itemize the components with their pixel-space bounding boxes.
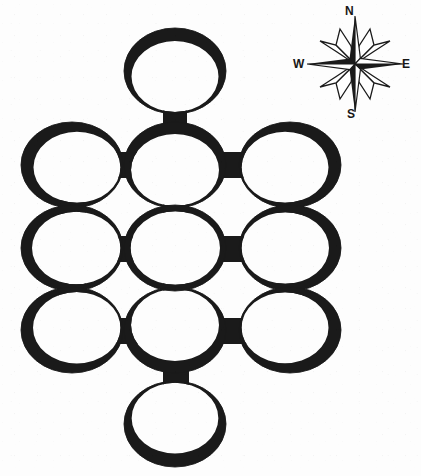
ring-interior — [242, 212, 330, 284]
connectors-layer — [32, 41, 329, 454]
compass-label-south: S — [347, 108, 355, 120]
compass-cardinal-points-icon — [307, 16, 403, 112]
ring-interior — [32, 212, 121, 285]
ring-interior — [242, 292, 329, 363]
ring-interior — [33, 132, 120, 203]
ring-interior — [131, 211, 221, 285]
ring-interior — [132, 383, 219, 454]
ring-interior — [131, 134, 219, 206]
diagram-canvas: N E S W — [0, 0, 421, 476]
compass-label-east: E — [402, 58, 410, 70]
ring-interior — [132, 41, 219, 112]
ring-interior — [33, 292, 121, 364]
compass-label-north: N — [345, 5, 354, 17]
ring-interior — [242, 132, 329, 203]
compass-label-west: W — [293, 58, 305, 70]
compass-rose: N E S W — [290, 2, 420, 128]
ring-interior — [131, 289, 219, 361]
